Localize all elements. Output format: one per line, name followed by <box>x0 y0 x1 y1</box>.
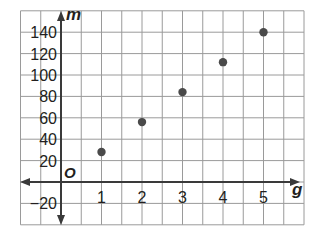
origin-label: O <box>64 164 76 181</box>
y-axis-label: m <box>66 5 81 24</box>
y-tick-label: 40 <box>39 131 57 148</box>
x-axis-arrow-left-icon <box>20 178 30 186</box>
y-tick-label: 20 <box>39 153 57 170</box>
y-tick-label: 80 <box>39 88 57 105</box>
data-point <box>259 28 267 36</box>
y-tick-label: 60 <box>39 110 57 127</box>
y-axis-arrow-down-icon <box>57 215 65 225</box>
x-axis-label: g <box>291 180 303 199</box>
data-point <box>97 148 105 156</box>
x-tick-label: 3 <box>178 189 187 206</box>
data-point <box>219 58 227 66</box>
y-axis-arrow-up-icon <box>57 11 65 21</box>
y-tick-label: 140 <box>30 24 57 41</box>
y-tick-label: 120 <box>30 46 57 63</box>
x-tick-label: 5 <box>259 189 268 206</box>
data-point <box>138 118 146 126</box>
x-tick-label: 2 <box>138 189 147 206</box>
y-tick-label: −20 <box>30 195 57 212</box>
x-tick-label: 1 <box>97 189 106 206</box>
x-tick-label: 4 <box>219 189 228 206</box>
y-tick-label: 100 <box>30 67 57 84</box>
scatter-chart: 12345−2020406080100120140 g m O <box>0 0 315 233</box>
data-point <box>178 88 186 96</box>
